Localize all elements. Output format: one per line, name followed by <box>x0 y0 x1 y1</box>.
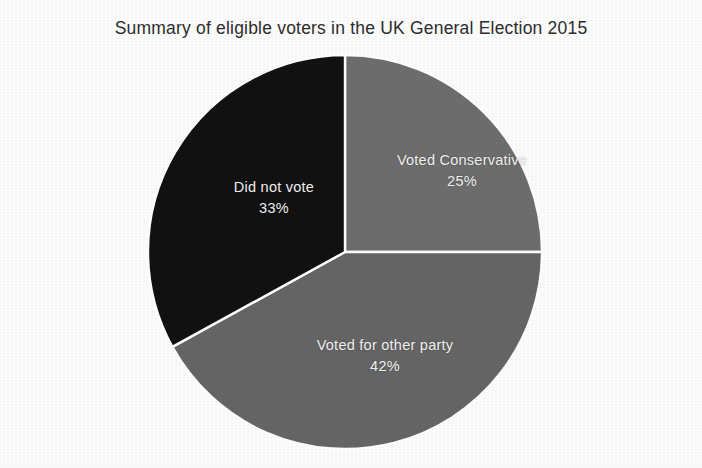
pie-label-did-not-vote-name: Did not vote <box>179 177 369 198</box>
pie-label-voted-conservative-value: 25% <box>357 171 567 192</box>
pie-label-did-not-vote: Did not vote 33% <box>179 177 369 218</box>
pie-chart-graphic: Voted Conservative 25% Voted for other p… <box>145 52 545 452</box>
pie-label-voted-for-other-party-name: Voted for other party <box>275 335 495 356</box>
pie-label-voted-conservative: Voted Conservative 25% <box>357 150 567 191</box>
pie-label-voted-for-other-party-value: 42% <box>275 356 495 377</box>
chart-title: Summary of eligible voters in the UK Gen… <box>0 18 702 39</box>
pie-chart-figure: Summary of eligible voters in the UK Gen… <box>0 0 702 468</box>
pie-slices <box>148 55 542 449</box>
pie-label-voted-conservative-name: Voted Conservative <box>357 150 567 171</box>
pie-label-voted-for-other-party: Voted for other party 42% <box>275 335 495 376</box>
pie-label-did-not-vote-value: 33% <box>179 198 369 219</box>
pie-svg <box>145 52 545 452</box>
